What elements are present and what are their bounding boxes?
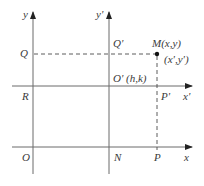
coordinate-diagram — [0, 0, 204, 186]
label-q: Q — [20, 48, 28, 59]
label-m: M(x,y) — [152, 38, 181, 49]
label-o-prime: O' (h,k) — [113, 73, 147, 84]
label-y-prime: y' — [96, 9, 103, 20]
label-p-prime: P' — [161, 91, 170, 102]
label-m-prime-coords: (x',y') — [164, 54, 189, 65]
point-m — [155, 52, 159, 56]
label-n: N — [114, 152, 121, 163]
label-x: x — [184, 152, 189, 163]
label-x-prime: x' — [183, 91, 190, 102]
label-r: R — [22, 91, 29, 102]
label-p: P — [154, 152, 161, 163]
label-o: O — [22, 152, 30, 163]
label-y: y — [23, 9, 28, 20]
label-q-prime: Q' — [113, 38, 123, 49]
